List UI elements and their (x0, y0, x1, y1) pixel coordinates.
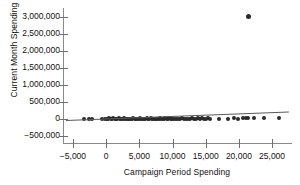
y-tick-mark (59, 85, 68, 86)
x-tick-mark (139, 139, 140, 148)
y-tick-mark (59, 17, 68, 18)
data-point (277, 116, 281, 120)
y-tick-label: 2,500,000 (4, 28, 60, 38)
x-tick-mark (206, 139, 207, 148)
y-tick-label: 0 (4, 113, 60, 123)
data-point (252, 116, 256, 120)
plot-area (63, 8, 292, 143)
data-point (246, 14, 251, 19)
y-tick-mark (59, 68, 68, 69)
y-tick-label: 1,500,000 (4, 62, 60, 72)
x-tick-mark (173, 139, 174, 148)
y-tick-label: 2,000,000 (4, 45, 60, 55)
y-tick-mark (59, 136, 68, 137)
scatter-chart: Current Month Spending Campaign Period S… (0, 0, 300, 185)
data-point (217, 117, 221, 121)
y-tick-mark (59, 119, 68, 120)
y-tick-mark (59, 51, 68, 52)
x-axis-title: Campaign Period Spending (63, 167, 291, 177)
y-tick-mark (59, 102, 68, 103)
data-point (246, 116, 250, 120)
y-tick-mark (59, 34, 68, 35)
x-tick-label: 25,000 (250, 151, 294, 161)
x-tick-mark (73, 139, 74, 148)
x-tick-mark (106, 139, 107, 148)
y-tick-label: 3,000,000 (4, 11, 60, 21)
x-tick-mark (239, 139, 240, 148)
data-point (262, 116, 266, 120)
y-tick-label: 1,000,000 (4, 79, 60, 89)
data-point (236, 117, 240, 121)
data-point (208, 117, 212, 121)
x-axis-line (63, 143, 292, 144)
y-tick-label: −500,000 (4, 130, 60, 140)
data-point (232, 116, 236, 120)
y-tick-label: 500,000 (4, 96, 60, 106)
data-point (226, 117, 230, 121)
x-tick-mark (272, 139, 273, 148)
